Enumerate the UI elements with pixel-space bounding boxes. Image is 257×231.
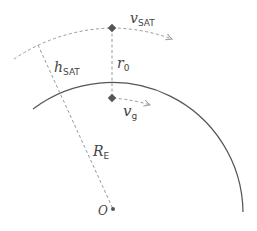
label-sub: 0 [124, 63, 130, 73]
label-r-e: RE [93, 144, 109, 161]
label-main: v [130, 10, 138, 26]
label-main: O [98, 204, 108, 218]
label-sub: SAT [138, 18, 155, 28]
label-main: R [93, 143, 104, 159]
orbit-diagram: vSAT hSAT r0 vg RE O [0, 0, 257, 231]
label-sub: E [104, 151, 110, 161]
label-r0: r0 [117, 56, 129, 73]
origin-point [111, 207, 115, 211]
label-sub: g [131, 111, 137, 121]
label-sub: SAT [63, 67, 80, 77]
label-main: r [117, 55, 124, 71]
label-h-sat: hSAT [54, 60, 80, 77]
label-v-sat: vSAT [130, 11, 155, 28]
label-v-g: vg [123, 104, 137, 121]
label-main: h [54, 59, 63, 75]
satellite-point [108, 24, 116, 32]
ground-point [108, 94, 116, 102]
label-origin: O [98, 205, 108, 217]
satellite-orbit [14, 28, 172, 59]
